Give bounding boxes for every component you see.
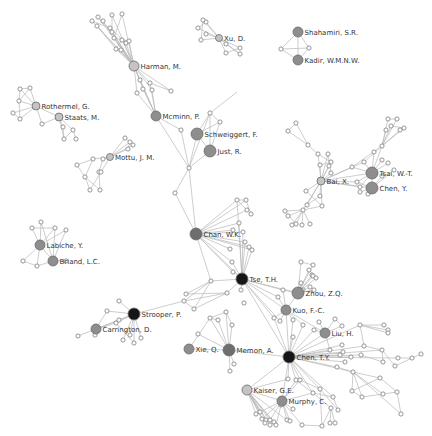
edge — [210, 312, 226, 318]
author-label: Tsai, W.-T. — [379, 170, 413, 178]
coauthor-node — [381, 392, 385, 396]
coauthor-node — [173, 191, 177, 195]
coauthor-node — [110, 30, 114, 34]
coauthor-node — [117, 299, 121, 303]
author-node-circle — [223, 344, 235, 356]
coauthor-node — [343, 360, 347, 364]
author-node-circle — [366, 182, 378, 194]
author-node-chenty: Chen, T.Y. — [283, 351, 330, 363]
edge — [289, 357, 333, 397]
author-label: Liu, H. — [332, 330, 354, 338]
edge — [380, 378, 397, 392]
author-label: Rothermel, G. — [42, 103, 90, 111]
author-label: Labiche, Y. — [47, 242, 84, 250]
coauthor-node — [99, 170, 103, 174]
author-node-circle — [277, 396, 287, 406]
author-node-stasts: Staats, M. — [55, 113, 99, 122]
coauthor-node — [307, 268, 311, 272]
coauthor-node — [120, 38, 124, 42]
author-node-layer: Harman, M.Mcminn, P.Schweiggert, F.Just,… — [32, 27, 413, 406]
coauthor-node — [320, 424, 324, 428]
coauthor-node — [386, 161, 390, 165]
coauthor-node — [232, 362, 236, 366]
author-node-circle — [366, 167, 378, 179]
coauthor-node — [419, 352, 423, 356]
edge — [364, 346, 382, 350]
coauthor-node — [299, 281, 303, 285]
coauthor-node — [301, 323, 305, 327]
coauthor-node — [237, 221, 241, 225]
author-node-circle — [91, 324, 101, 334]
coauthor-node — [294, 222, 298, 226]
coauthor-node — [105, 309, 109, 313]
coauthor-node — [333, 317, 337, 321]
coauthor-node — [328, 348, 332, 352]
coauthor-node — [318, 163, 322, 167]
coauthor-node — [150, 88, 154, 92]
author-node-circle — [236, 273, 248, 285]
coauthor-node — [245, 208, 249, 212]
edge — [288, 131, 308, 145]
coauthor-node — [108, 26, 112, 30]
author-node-shahamiri: Shahamiri, S.R. — [293, 27, 358, 37]
author-label: Schweiggert, F. — [205, 131, 258, 139]
coauthor-node — [283, 209, 287, 213]
coauthor-node — [326, 152, 330, 156]
coauthor-node — [126, 147, 130, 151]
edge — [382, 119, 397, 146]
coauthor-node — [286, 129, 290, 133]
author-node-kadir: Kadir, W.M.N.W. — [293, 55, 359, 65]
coauthor-node — [329, 406, 333, 410]
coauthor-node — [110, 13, 114, 17]
coauthor-node — [224, 42, 228, 46]
coauthor-node — [228, 369, 232, 373]
edge — [352, 372, 353, 391]
author-node-circle — [107, 154, 114, 161]
coauthor-node — [286, 377, 290, 381]
author-node-murphy: Murphy, C. — [277, 396, 326, 406]
coauthor-node — [299, 260, 303, 264]
coauthor-node — [228, 247, 232, 251]
edge — [242, 279, 280, 321]
coauthor-node — [28, 86, 32, 90]
coauthor-node — [307, 46, 311, 50]
author-node-labiche: Labiche, Y. — [35, 240, 83, 250]
author-label: Memon, A. — [237, 347, 274, 355]
author-node-circle — [320, 328, 330, 338]
coauthor-node — [272, 316, 276, 320]
coauthor-node — [389, 124, 393, 128]
coauthor-node — [101, 19, 105, 23]
coauthor-node — [238, 52, 242, 56]
author-node-circle — [281, 305, 291, 315]
author-node-circle — [35, 240, 45, 250]
coauthor-node — [18, 87, 22, 91]
coauthor-node — [182, 299, 186, 303]
coauthor-node — [329, 160, 333, 164]
coauthor-node — [249, 212, 253, 216]
edge — [175, 168, 189, 193]
coauthor-node — [274, 423, 278, 427]
coauthor-node — [17, 99, 21, 103]
coauthor-node — [209, 279, 213, 283]
coauthor-node — [288, 419, 292, 423]
coauthor-node — [21, 259, 25, 263]
author-label: Briand, L.C. — [60, 258, 100, 266]
author-node-bai: Bai, X. — [317, 177, 349, 186]
coauthor-node — [308, 285, 312, 289]
author-label: Mcminn, P. — [163, 113, 200, 121]
coauthor-node — [83, 175, 87, 179]
author-label: Just, R. — [217, 148, 242, 156]
coauthor-node — [336, 408, 340, 412]
author-label: Chen, T.Y. — [297, 354, 330, 362]
coauthor-node — [335, 365, 339, 369]
coauthor-node — [393, 364, 397, 368]
coauthor-node — [286, 214, 290, 218]
author-label: Chen, Y. — [380, 185, 408, 193]
author-label: Chan, W.K. — [204, 231, 242, 239]
edge — [302, 425, 322, 426]
coauthor-node — [96, 15, 100, 19]
coauthor-node — [317, 320, 321, 324]
coauthor-node — [338, 353, 342, 357]
author-node-memon: Memon, A. — [223, 344, 274, 356]
coauthor-node — [201, 18, 205, 22]
